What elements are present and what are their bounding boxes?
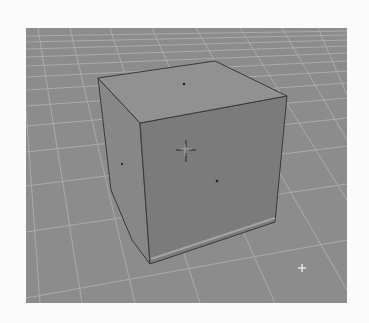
left-face-dot xyxy=(121,163,123,165)
3d-viewport[interactable]: 3D Viewport xyxy=(26,28,347,303)
front-face-dot xyxy=(216,180,219,183)
viewport-canvas[interactable] xyxy=(26,28,347,303)
top-face-dot xyxy=(183,83,186,86)
page: 3D Viewport xyxy=(0,0,369,323)
